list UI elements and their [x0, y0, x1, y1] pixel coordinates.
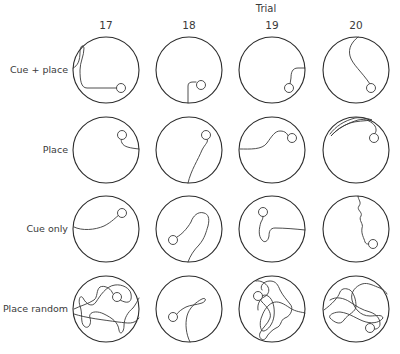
pool-cue-place-19: [239, 37, 305, 103]
platform-icon: [113, 293, 122, 302]
pool-place-18: [156, 117, 222, 183]
platform-icon: [369, 240, 378, 249]
platform-icon: [366, 324, 375, 333]
pool-place-17: [73, 117, 139, 183]
platform-icon: [202, 131, 211, 140]
pool-cue-only-20: [323, 196, 389, 262]
pool-cue-only-17: [73, 196, 139, 262]
platform-icon: [367, 84, 376, 93]
platform-icon: [169, 236, 178, 245]
pool-place-random-18: [156, 276, 222, 342]
pool-cue-place-18: [156, 37, 222, 103]
platform-icon: [118, 209, 127, 218]
pool-cue-only-18: [156, 196, 222, 262]
pool-place-random-20: [323, 276, 389, 342]
pool-place-20: [323, 117, 389, 183]
platform-icon: [285, 84, 294, 93]
platform-icon: [259, 208, 268, 217]
platform-icon: [169, 313, 178, 322]
pool-cue-place-20: [323, 37, 389, 103]
platform-icon: [370, 134, 379, 143]
platform-icon: [117, 84, 126, 93]
platform-icon: [197, 81, 206, 90]
platform-icon: [254, 292, 263, 301]
pool-place-random-17: [73, 276, 139, 342]
pool-place-random-19: [239, 276, 305, 342]
pool-cue-place-17: [73, 37, 139, 103]
platform-icon: [118, 131, 127, 140]
platform-icon: [288, 134, 297, 143]
swim-path-grid: [0, 0, 400, 354]
pool-cue-only-19: [239, 196, 305, 262]
pool-place-19: [239, 117, 305, 183]
